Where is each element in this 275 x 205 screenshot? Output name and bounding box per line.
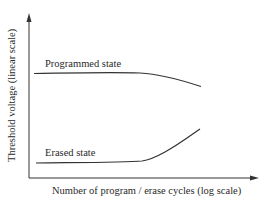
chart-canvas — [0, 0, 275, 205]
programmed-state-label: Programmed state — [45, 58, 121, 69]
programmed-state-curve — [34, 73, 201, 87]
x-axis-label: Number of program / erase cycles (log sc… — [52, 185, 241, 196]
y-axis-label: Threshold voltage (linear scale) — [6, 29, 17, 162]
erased-state-label: Erased state — [45, 147, 95, 158]
x-axis-arrow-icon — [250, 176, 259, 181]
y-axis-arrow-icon — [27, 13, 32, 22]
